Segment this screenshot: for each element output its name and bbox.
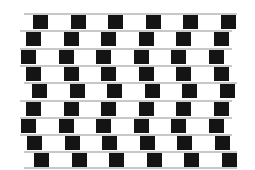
black-tile [214, 32, 229, 46]
cafe-wall-illusion [0, 0, 255, 170]
black-tile [182, 84, 197, 98]
black-tile [134, 119, 149, 133]
black-tile [139, 32, 154, 46]
black-tile [65, 136, 80, 150]
mortar-line [20, 30, 232, 32]
black-tile [139, 67, 154, 81]
black-tile [184, 153, 199, 167]
black-tile [140, 136, 155, 150]
black-tile [109, 153, 124, 167]
black-tile [21, 119, 36, 133]
black-tile [209, 50, 224, 64]
black-tile [71, 15, 86, 29]
black-tile [21, 50, 36, 64]
black-tile [70, 84, 85, 98]
black-tile [221, 15, 236, 29]
black-tile [102, 136, 117, 150]
black-tile [220, 84, 235, 98]
black-tile [72, 153, 87, 167]
black-tile [171, 119, 186, 133]
black-tile [176, 67, 191, 81]
black-tile [139, 102, 154, 116]
black-tile [214, 67, 229, 81]
mortar-line [24, 82, 237, 84]
black-tile [107, 84, 122, 98]
black-tile [146, 15, 161, 29]
black-tile [171, 50, 186, 64]
black-tile [101, 32, 116, 46]
mortar-line [20, 117, 232, 119]
mortar-line [24, 151, 237, 153]
black-tile [64, 67, 79, 81]
black-tile [176, 102, 191, 116]
black-tile [34, 153, 49, 167]
black-tile [101, 102, 116, 116]
mortar-line [20, 65, 232, 67]
black-tile [64, 32, 79, 46]
black-tile [101, 67, 116, 81]
black-tile [145, 84, 160, 98]
mortar-line [20, 48, 232, 50]
black-tile [147, 153, 162, 167]
black-tile [96, 50, 111, 64]
black-tile [26, 67, 41, 81]
mortar-line [20, 100, 232, 102]
black-tile [183, 15, 198, 29]
black-tile [59, 119, 74, 133]
black-tile [27, 136, 42, 150]
black-tile [209, 119, 224, 133]
black-tile [214, 102, 229, 116]
black-tile [59, 50, 74, 64]
black-tile [222, 153, 237, 167]
black-tile [108, 15, 123, 29]
mortar-line [24, 13, 237, 15]
mortar-line [24, 167, 237, 169]
black-tile [26, 102, 41, 116]
black-tile [33, 15, 48, 29]
black-tile [215, 136, 230, 150]
black-tile [26, 32, 41, 46]
black-tile [96, 119, 111, 133]
black-tile [64, 102, 79, 116]
black-tile [32, 84, 47, 98]
black-tile [134, 50, 149, 64]
black-tile [177, 136, 192, 150]
black-tile [176, 32, 191, 46]
mortar-line [20, 134, 232, 136]
